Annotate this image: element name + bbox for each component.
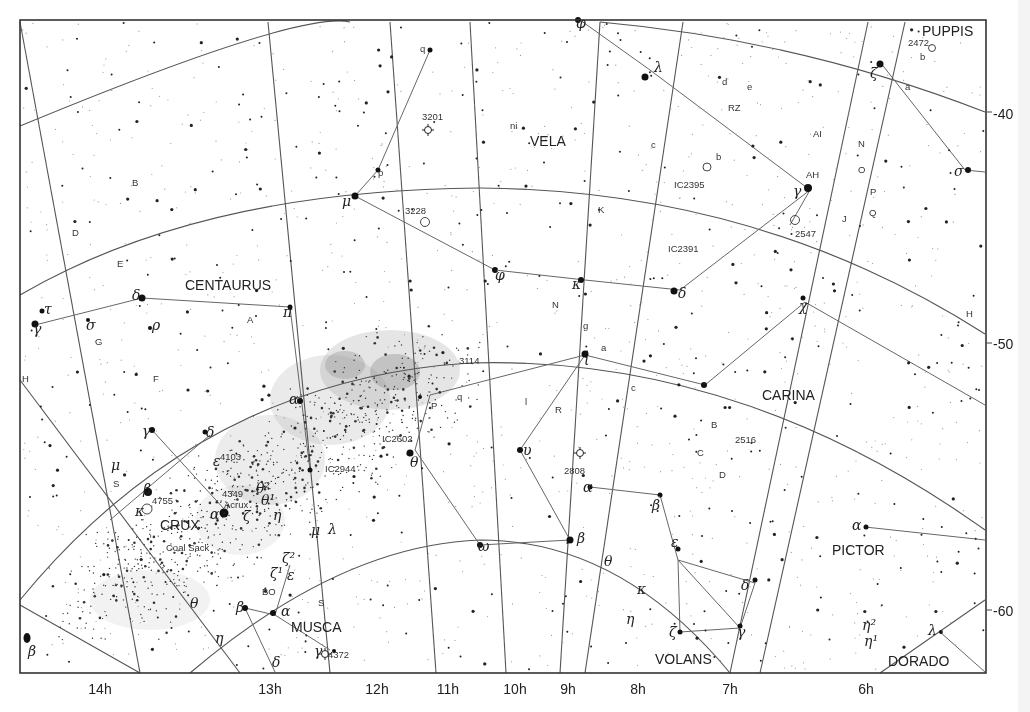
- dso-label: 4349: [222, 488, 243, 499]
- star-greek-label: α: [583, 479, 593, 495]
- star-letter-label: l: [525, 396, 527, 407]
- ra-tick-label: 9h: [560, 681, 576, 697]
- planetary-nebula-icon: [422, 124, 434, 136]
- star-greek-label: ζ²: [282, 550, 296, 566]
- ra-tick-label: 7h: [722, 681, 738, 697]
- star-letter-label: RZ: [728, 102, 741, 113]
- ra-axis-labels: 14h13h12h11h10h9h8h7h6h: [88, 681, 873, 697]
- constellation-label: PUPPIS: [922, 23, 973, 39]
- star-greek-label: θ: [604, 553, 613, 569]
- star-letter-label: d: [722, 76, 727, 87]
- star-letter-label: H: [966, 308, 973, 319]
- ra-tick-label: 14h: [88, 681, 111, 697]
- star-letter-label: ni: [510, 120, 517, 131]
- star-letter-label: g: [583, 320, 588, 331]
- planetary-nebula-icon: [574, 447, 586, 459]
- star-greek-label: ε: [287, 567, 295, 583]
- constellation-label: DORADO: [888, 653, 950, 669]
- star-greek-label: η: [273, 507, 282, 523]
- dso-label: 3114: [459, 355, 479, 366]
- star-greek-label: γ: [314, 643, 323, 659]
- star-letter-label: D: [719, 469, 726, 480]
- star-greek-label: π: [282, 304, 293, 320]
- star-chart: PUPPISVELACENTAURUSCARINACRUXPICTORMUSCA…: [0, 0, 1030, 712]
- ra-tick-label: 8h: [630, 681, 646, 697]
- star-letter-label: a: [601, 342, 607, 353]
- dso-label: Acrux: [224, 499, 249, 510]
- star-greek-label: φ: [576, 15, 586, 31]
- star-greek-label: φ: [495, 267, 505, 283]
- star-greek-label: γ: [33, 321, 42, 337]
- star-greek-label: κ: [571, 276, 581, 292]
- star-greek-label: ζ: [870, 65, 879, 81]
- star-letter-label: O: [858, 164, 865, 175]
- star-letter-label: B: [711, 419, 717, 430]
- star-greek-label: β: [576, 530, 585, 546]
- star-greek-label: γ: [142, 423, 151, 439]
- star-greek-label: σ: [86, 317, 96, 333]
- star-greek-label: μ: [311, 522, 320, 538]
- dso-label: 2547: [795, 228, 816, 239]
- star-greek-label: γ: [793, 183, 802, 199]
- open-cluster-icon: [703, 163, 711, 171]
- dso-label: 4372: [328, 649, 349, 660]
- star-greek-label: β: [235, 599, 244, 615]
- star-greek-label: β: [142, 481, 151, 497]
- star-greek-label: α: [281, 603, 291, 619]
- star-greek-label: θ¹: [261, 492, 275, 508]
- star-letter-label: b: [920, 51, 925, 62]
- star-greek-label: η¹: [864, 633, 878, 649]
- dso-label: IC2602: [382, 433, 413, 444]
- star-greek-label: θ: [410, 454, 419, 470]
- star-greek-label: ι: [584, 352, 590, 368]
- constellation-label: MUSCA: [291, 619, 342, 635]
- dec-tick-label: -60: [993, 603, 1013, 619]
- star-letter-label: a: [905, 81, 911, 92]
- star-greek-label: δ: [741, 577, 749, 593]
- star-greek-label: τ: [44, 301, 52, 317]
- star-greek-label: λ: [653, 59, 663, 75]
- open-cluster-icon: [421, 218, 430, 227]
- star-greek-label: υ: [523, 442, 532, 458]
- dso-label: 2516: [735, 434, 756, 445]
- star-greek-label: η: [626, 611, 635, 627]
- star-greek-label: β: [651, 497, 660, 513]
- dec-ticks: [986, 112, 992, 610]
- star-greek-label: ρ: [151, 317, 161, 333]
- star-greek-label: χ: [798, 298, 809, 314]
- star-greek-label: δ: [206, 424, 214, 440]
- star-greek-label: σ: [954, 163, 964, 179]
- star-letter-label: D: [72, 227, 79, 238]
- dso-label: 2472: [908, 37, 929, 48]
- dso-label: IC2395: [674, 179, 705, 190]
- star-letter-label: J: [842, 213, 847, 224]
- page-margin: [1018, 0, 1030, 712]
- star-greek-label: λ: [927, 622, 937, 638]
- constellation-label: CRUX: [160, 517, 200, 533]
- dso-label: 3228: [405, 205, 426, 216]
- constellation-label: CARINA: [762, 387, 816, 403]
- star-greek-label: κ: [636, 581, 646, 597]
- star-greek-label: θ: [190, 595, 199, 611]
- dso-label: 4755: [152, 495, 173, 506]
- star-letter-label: b: [716, 151, 721, 162]
- star-letter-label: F: [153, 373, 159, 384]
- star-greek-label: α: [210, 506, 220, 522]
- ra-tick-label: 10h: [503, 681, 526, 697]
- constellation-label: VELA: [530, 133, 566, 149]
- star-greek-label: μ: [111, 457, 120, 473]
- star-letter-label: K: [598, 204, 605, 215]
- dso-label: 4103: [220, 451, 241, 462]
- milky-way-haze: [90, 330, 460, 630]
- star-letter-label: B: [132, 177, 138, 188]
- star-letter-label: A: [247, 314, 254, 325]
- constellation-label: PICTOR: [832, 542, 885, 558]
- star-letter-label: N: [858, 138, 865, 149]
- ra-tick-label: 12h: [365, 681, 388, 697]
- constellation-label: CENTAURUS: [185, 277, 271, 293]
- ra-tick-label: 6h: [858, 681, 874, 697]
- star-letter-label: Q: [869, 207, 876, 218]
- star-letter-label: S: [113, 478, 119, 489]
- star-letter-label: q: [420, 43, 425, 54]
- star-greek-label: λ: [327, 521, 337, 537]
